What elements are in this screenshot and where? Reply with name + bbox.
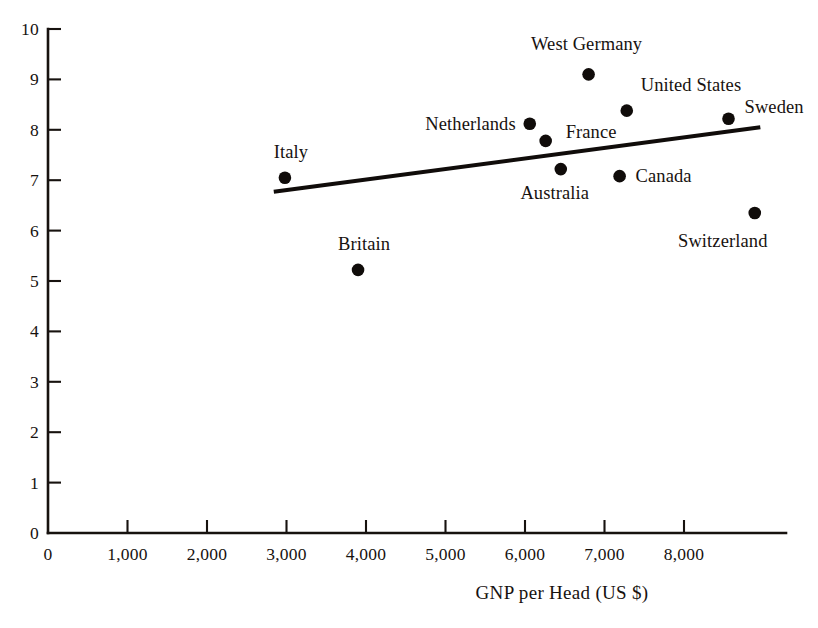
data-point-dot[interactable] xyxy=(279,171,292,184)
data-point-dot[interactable] xyxy=(582,68,595,81)
x-tick-label: 8,000 xyxy=(664,544,704,565)
data-point-label: Switzerland xyxy=(678,230,767,251)
data-point-label: United States xyxy=(641,74,741,95)
x-tick-label: 0 xyxy=(44,544,53,565)
x-axis-title: GNP per Head (US $) xyxy=(476,582,649,604)
x-tick-label: 6,000 xyxy=(505,544,545,565)
data-point-dot[interactable] xyxy=(523,117,536,130)
scatter-chart-figure: 01234567891001,0002,0003,0004,0005,0006,… xyxy=(0,0,818,628)
data-point-dot[interactable] xyxy=(722,112,735,125)
data-point-label: Italy xyxy=(274,141,308,162)
x-tick-label: 4,000 xyxy=(346,544,386,565)
data-point-label: Australia xyxy=(520,183,589,204)
y-tick-label: 6 xyxy=(30,220,39,241)
x-tick-label: 2,000 xyxy=(187,544,227,565)
x-tick-label: 5,000 xyxy=(425,544,465,565)
y-tick-label: 2 xyxy=(30,422,39,443)
data-point-label: West Germany xyxy=(531,34,642,55)
y-tick-label: 0 xyxy=(30,523,39,544)
data-point-label: Canada xyxy=(636,166,692,187)
data-point-dot[interactable] xyxy=(613,170,626,183)
data-point-label: Sweden xyxy=(745,96,804,117)
data-point-dot[interactable] xyxy=(620,104,633,117)
x-tick-label: 7,000 xyxy=(584,544,624,565)
data-point-dot[interactable] xyxy=(539,135,552,148)
x-tick-label: 1,000 xyxy=(107,544,147,565)
y-tick-label: 7 xyxy=(30,170,39,191)
data-point-dot[interactable] xyxy=(554,163,567,176)
y-tick-label: 3 xyxy=(30,371,39,392)
data-point-label: Netherlands xyxy=(425,113,515,134)
y-tick-label: 8 xyxy=(30,119,39,140)
data-point-label: France xyxy=(566,121,617,142)
x-tick-label: 3,000 xyxy=(266,544,306,565)
data-point-dot[interactable] xyxy=(748,207,761,220)
tick-group xyxy=(48,29,684,533)
y-tick-label: 4 xyxy=(30,321,39,342)
data-point-dot[interactable] xyxy=(352,264,365,277)
axis-group xyxy=(48,29,786,533)
data-point-label: Britain xyxy=(338,233,390,254)
y-tick-label: 10 xyxy=(21,19,39,40)
y-tick-label: 9 xyxy=(30,69,39,90)
y-tick-label: 5 xyxy=(30,271,39,292)
y-tick-label: 1 xyxy=(30,472,39,493)
